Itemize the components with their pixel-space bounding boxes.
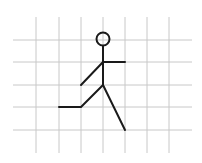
left-arm — [81, 62, 103, 85]
stick-figure — [59, 33, 125, 131]
grid-diagram — [0, 0, 202, 163]
